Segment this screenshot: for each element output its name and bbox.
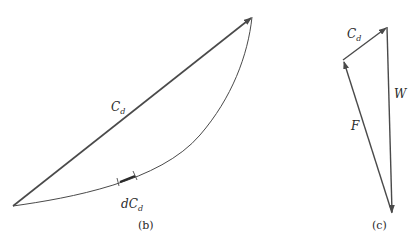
w-vector: [387, 27, 392, 212]
caption-b: (b): [138, 219, 154, 232]
caption-c: (c): [372, 219, 387, 232]
element-dcd-segment: [120, 176, 135, 182]
panel-c: Cd W F (c): [343, 27, 408, 232]
panel-b: Cd dCd (b): [13, 17, 252, 232]
cd-label: Cd: [347, 27, 361, 43]
f-label: F: [350, 119, 360, 133]
element-tick-left: [117, 178, 119, 186]
force-diagram: Cd dCd (b) Cd W F (c): [0, 0, 417, 237]
w-label: W: [394, 87, 408, 101]
chord-label: Cd: [111, 100, 125, 116]
f-vector: [344, 62, 392, 213]
element-label: dCd: [121, 197, 143, 213]
